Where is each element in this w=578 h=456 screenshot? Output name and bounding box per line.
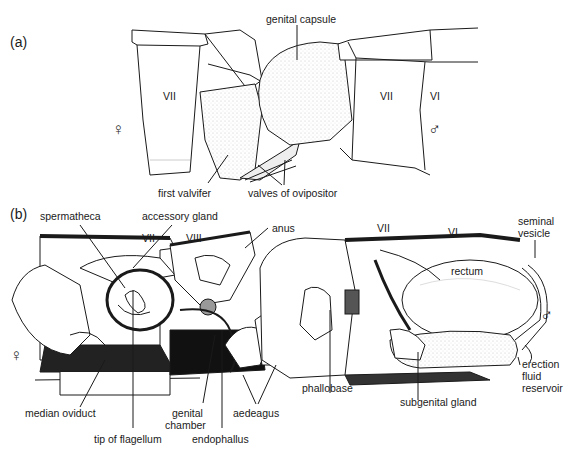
segment-male-vi-b: VI xyxy=(448,226,458,238)
label-valves-of-ovipositor: valves of ovipositor xyxy=(248,187,337,199)
label-median-oviduct: median oviduct xyxy=(25,407,96,419)
label-erection-1: erection xyxy=(522,358,559,370)
segment-male-vii-b: VII xyxy=(377,222,390,234)
label-endophallus: endophallus xyxy=(192,433,249,445)
label-erection-2: fluid xyxy=(522,370,541,382)
female-symbol-a: ♀ xyxy=(112,120,125,140)
label-first-valvifer: first valvifer xyxy=(158,187,211,199)
segment-male-vi-a: VI xyxy=(430,90,440,102)
label-aedeagus: aedeagus xyxy=(233,407,279,419)
label-genital-chamber-2: chamber xyxy=(165,419,206,431)
segment-female-vii-b: VII xyxy=(142,232,155,244)
label-spermatheca: spermatheca xyxy=(40,210,101,222)
label-genital-chamber-1: genital xyxy=(172,407,203,419)
panel-b-drawing xyxy=(12,232,547,395)
segment-female-vii-a: VII xyxy=(163,90,176,102)
male-symbol-b: ♂ xyxy=(540,306,553,326)
label-anus: anus xyxy=(272,222,295,234)
label-tip-of-flagellum: tip of flagellum xyxy=(94,433,162,445)
label-accessory-gland: accessory gland xyxy=(142,210,218,222)
segment-female-viii-b: VIII xyxy=(186,232,202,244)
female-symbol-b: ♀ xyxy=(10,346,23,366)
panel-b-label: (b) xyxy=(10,206,27,222)
segment-male-vii-a: VII xyxy=(380,90,393,102)
male-symbol-a: ♂ xyxy=(428,120,441,140)
label-erection-3: reservoir xyxy=(522,382,563,394)
label-seminal-vesicle-1: seminal xyxy=(518,215,554,227)
label-phallobase: phallobase xyxy=(302,382,353,394)
panel-a-drawing xyxy=(132,28,478,182)
label-seminal-vesicle-2: vesicle xyxy=(518,227,550,239)
label-subgenital-gland: subgenital gland xyxy=(400,396,476,408)
panel-a-label: (a) xyxy=(10,34,27,50)
label-genital-capsule: genital capsule xyxy=(266,13,336,25)
label-rectum: rectum xyxy=(451,265,483,277)
